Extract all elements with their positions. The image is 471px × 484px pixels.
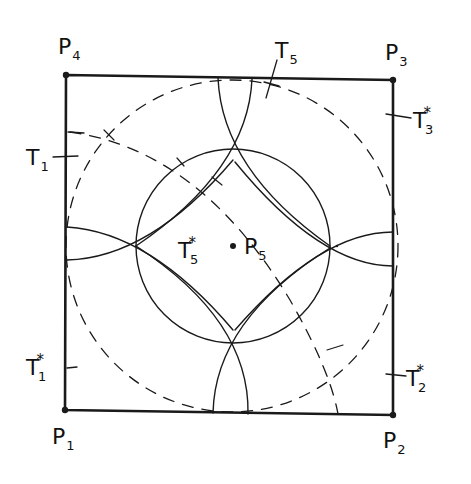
label-T5: T5 <box>275 40 298 66</box>
tick-T1 <box>53 156 78 157</box>
label-P4: P4 <box>58 36 81 62</box>
label-T2-star: T*2 <box>406 364 426 394</box>
vertex-P4 <box>63 72 69 78</box>
vertex-P2 <box>390 412 396 418</box>
tick-T3star <box>386 114 411 118</box>
left-arc-lower <box>67 160 233 260</box>
bottom-arc-right <box>136 246 248 414</box>
center-P5 <box>230 243 236 249</box>
label-T1-star: T*1 <box>26 353 46 383</box>
tick-T1-upper <box>68 132 84 133</box>
vertex-P3 <box>390 77 396 83</box>
tick-T1star <box>67 367 77 368</box>
tick-T2star <box>386 374 406 376</box>
label-P5: P5 <box>244 236 267 262</box>
bottom-arc-left <box>213 248 330 413</box>
geometry-diagram <box>0 0 471 484</box>
label-T5-star: T*5 <box>178 236 198 266</box>
square-outline <box>65 75 393 415</box>
label-P3: P3 <box>385 42 408 68</box>
left-arc-upper <box>67 227 233 330</box>
label-T1: T1 <box>26 147 49 173</box>
label-P1: P1 <box>52 426 75 452</box>
label-T3-star: T*3 <box>413 106 433 136</box>
vertex-P1 <box>62 407 68 413</box>
label-P2: P2 <box>383 430 406 456</box>
stray-dot <box>336 245 338 247</box>
tick-dash-4 <box>327 345 343 350</box>
